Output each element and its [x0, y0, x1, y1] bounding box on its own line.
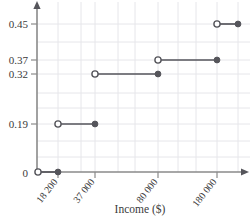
- y-tick-label-037: 0.37: [9, 54, 29, 66]
- open-dot-18200-019: [55, 121, 61, 127]
- open-dot-180000-045: [214, 21, 220, 27]
- open-dot-origin: [35, 169, 41, 175]
- y-tick-label-045: 0.45: [9, 18, 29, 30]
- y-tick-label-032: 0.32: [9, 68, 28, 80]
- closed-dot-80000-032: [155, 71, 161, 77]
- step-endpoint-markers: [35, 21, 241, 175]
- x-tick-label-37000: 37 000: [71, 176, 97, 204]
- step-segments: [38, 24, 238, 172]
- y-axis-arrowhead: [33, 1, 40, 9]
- x-axis-title: Income ($): [115, 203, 166, 216]
- grid-horizontal-lines: [37, 24, 250, 157]
- y-tick-label-0: 0: [23, 167, 29, 179]
- y-tick-labels: 0.45 0.37 0.32 0.19 0: [9, 18, 29, 179]
- x-tick-label-18200: 18 200: [34, 176, 60, 204]
- closed-dot-180000-037: [214, 57, 220, 63]
- tax-rate-step-chart: 0.45 0.37 0.32 0.19 0 18 200 37 000 80 0…: [0, 0, 252, 220]
- x-tick-label-80000: 80 000: [134, 176, 160, 204]
- closed-dot-18200-zero: [55, 169, 61, 175]
- open-dot-80000-037: [155, 57, 161, 63]
- closed-dot-end-045: [235, 21, 241, 27]
- grid-vertical-lines: [58, 2, 238, 172]
- open-dot-37000-032: [92, 71, 98, 77]
- y-axis: [31, 1, 41, 172]
- closed-dot-37000-019: [92, 121, 98, 127]
- y-tick-label-019: 0.19: [9, 118, 29, 130]
- x-tick-label-180000: 180 000: [190, 176, 219, 208]
- x-axis-arrowhead: [241, 168, 249, 175]
- chart-svg: 0.45 0.37 0.32 0.19 0 18 200 37 000 80 0…: [0, 0, 252, 220]
